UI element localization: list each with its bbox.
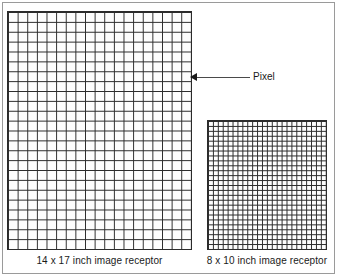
pixel-callout-arrowhead-icon [190, 73, 197, 81]
pixel-callout-label: Pixel [253, 71, 275, 82]
diagram-figure: Pixel 14 x 17 inch image receptor 8 x 10… [0, 0, 339, 278]
caption-receptor-small: 8 x 10 inch image receptor [203, 255, 331, 266]
image-receptor-grid-large [7, 11, 192, 250]
pixel-callout-line [196, 77, 250, 78]
caption-receptor-large: 14 x 17 inch image receptor [7, 255, 192, 266]
image-receptor-grid-small [207, 120, 327, 250]
